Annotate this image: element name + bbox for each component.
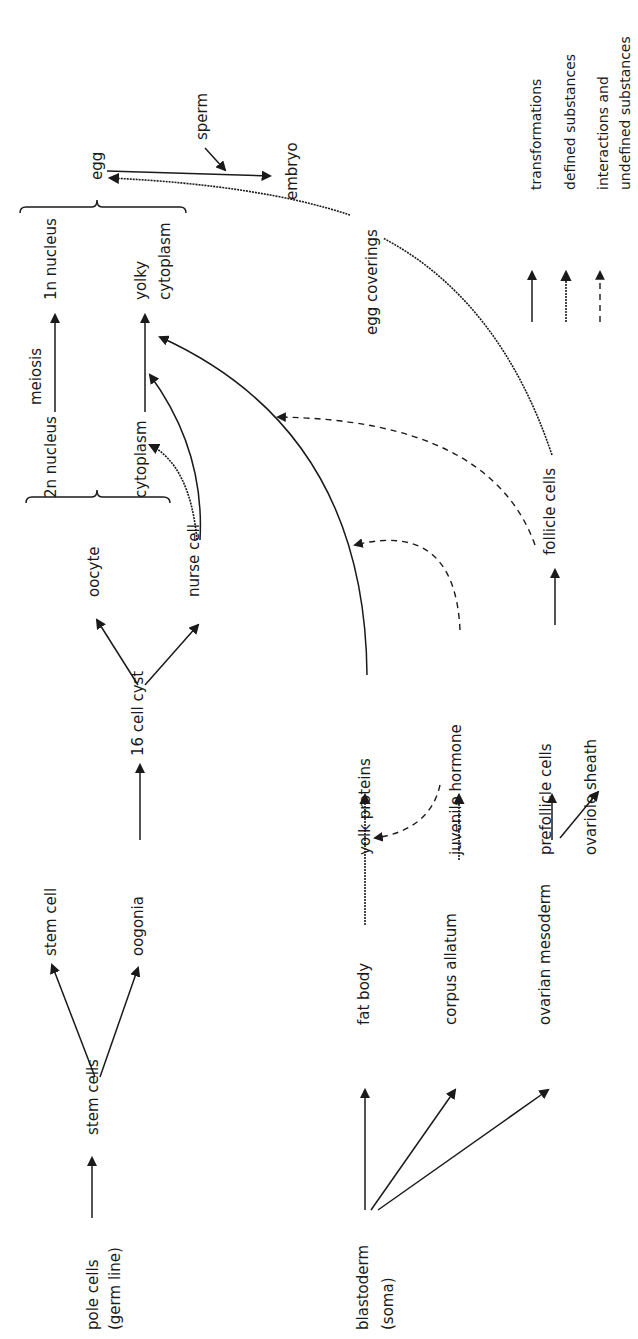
arrow-sperm <box>205 148 225 170</box>
label-follicle: follicle cells <box>541 468 559 555</box>
label-juvenile_hormone: juvenile hormone <box>447 724 465 856</box>
arrow-egg-to-embryo <box>107 171 270 176</box>
label-oocyte: oocyte <box>85 546 103 597</box>
soma-arrows <box>110 178 598 1210</box>
dashed-jh-fatbody <box>375 785 440 838</box>
label-soma: (soma) <box>379 1278 397 1331</box>
label-ovarian_mesoderm: ovarian mesoderm <box>536 884 554 1025</box>
legend <box>532 272 600 322</box>
label-blastoderm: blastoderm <box>354 1245 372 1330</box>
label-oogonia: oogonia <box>129 896 147 956</box>
label-cyst16: 16 cell cyst <box>129 671 147 756</box>
diagram-canvas: pole cells(germ line)stem cellsstem cell… <box>0 0 638 1339</box>
label-stem_cell: stem cell <box>42 888 60 956</box>
arrow-blasto-ovarian <box>378 1090 548 1210</box>
label-n2: 2n nucleus <box>42 416 60 498</box>
oogenesis-diagram: pole cells(germ line)stem cellsstem cell… <box>0 0 638 1339</box>
label-cytoplasm: cytoplasm <box>132 421 150 499</box>
label-yolky: yolky <box>132 261 150 300</box>
label-embryo: embryo <box>283 142 301 200</box>
label-meiosis: meiosis <box>27 348 45 405</box>
brace-egg <box>20 200 186 213</box>
label-n1: 1n nucleus <box>42 218 60 300</box>
arrow-cyst-to-oocyte <box>97 620 138 685</box>
dashed-follicle-to-yolk <box>278 417 535 545</box>
label-egg_coverings: egg coverings <box>363 229 381 335</box>
label-transformations: transformations <box>528 79 544 190</box>
label-interactions2: undefined substances <box>617 36 633 190</box>
arrow-cyst-to-nurse <box>145 625 198 685</box>
wavy-coverings-to-egg <box>110 178 350 215</box>
label-fat_body: fat body <box>355 963 373 1025</box>
arrow-stem-to-oogonia <box>100 968 138 1077</box>
label-egg: egg <box>88 152 106 180</box>
arrow-stem-to-stemcell <box>52 965 95 1077</box>
label-pole_cells: pole cells <box>84 1259 102 1330</box>
label-yolky_cyto: cytoplasm <box>156 223 174 301</box>
dashed-jh-to-yolkproteins <box>355 540 460 630</box>
wavy-follicle-to-coverings <box>383 238 552 455</box>
label-sperm: sperm <box>193 93 211 140</box>
label-interactions: interactions and <box>595 76 611 190</box>
label-defined: defined substances <box>562 54 578 190</box>
label-germ_line: (germ line) <box>106 1247 124 1330</box>
label-ovariole_sheath: ovariole sheath <box>582 739 600 855</box>
label-corpus_allatum: corpus allatum <box>442 913 460 1025</box>
arrow-blasto-corpus <box>371 1090 455 1210</box>
